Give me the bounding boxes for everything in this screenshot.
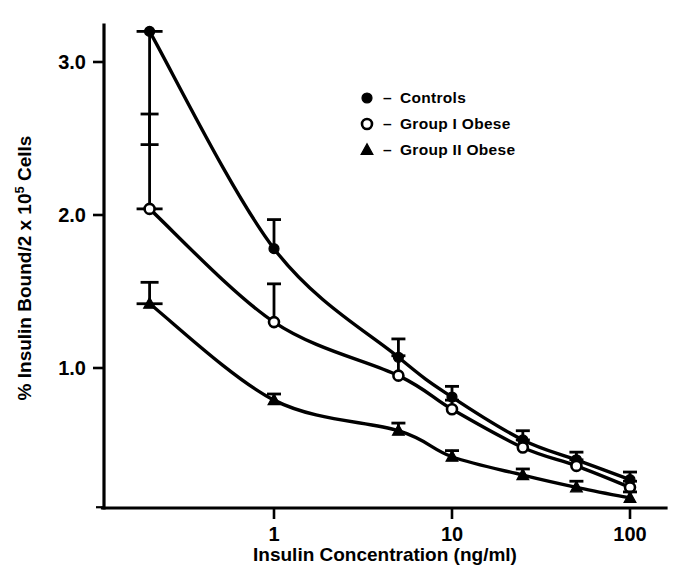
x-tick-label-1: 1 <box>268 523 279 545</box>
data-point-group-i-obese-0 <box>145 204 155 214</box>
x-axis-title: Insulin Concentration (ng/ml) <box>253 544 517 565</box>
legend-dash: – <box>383 89 392 106</box>
y-tick-label-2.0: 2.0 <box>58 204 86 226</box>
figure-root: 1.02.03.0 110100 –Controls–Group I Obese… <box>0 0 675 576</box>
data-point-group-i-obese-5 <box>571 461 581 471</box>
data-point-controls-0 <box>145 26 155 36</box>
legend-dash: – <box>383 141 392 158</box>
insulin-binding-chart: 1.02.03.0 110100 –Controls–Group I Obese… <box>0 0 675 576</box>
data-point-controls-1 <box>269 244 279 254</box>
data-point-group-i-obese-2 <box>393 371 403 381</box>
x-axis-title-label: Insulin Concentration (ng/ml) <box>253 544 517 565</box>
y-axis-title-tail: Cells <box>14 136 35 187</box>
legend-label-group-ii-obese: Group II Obese <box>400 141 515 158</box>
legend-label-group-i-obese: Group I Obese <box>400 115 511 132</box>
legend-dash: – <box>383 115 392 132</box>
y-tick-label-1.0: 1.0 <box>58 357 86 379</box>
y-axis-title-main: % Insulin Bound/2 x 10 <box>14 194 35 401</box>
data-point-group-i-obese-3 <box>447 404 457 414</box>
x-tick-label-100: 100 <box>613 523 646 545</box>
legend-item-group-ii-obese: –Group II Obese <box>361 141 515 158</box>
x-tick-label-10: 10 <box>441 523 463 545</box>
data-point-group-i-obese-1 <box>269 317 279 327</box>
y-tick-label-3.0: 3.0 <box>58 51 86 73</box>
data-point-group-i-obese-4 <box>518 443 528 453</box>
legend-marker-controls <box>362 93 372 103</box>
legend-marker-group-i-obese <box>362 119 372 129</box>
y-axis-title: % Insulin Bound/2 x 105 Cells <box>12 136 35 401</box>
y-axis-title-superscript: 5 <box>12 186 27 193</box>
legend-label-controls: Controls <box>400 89 466 106</box>
y-axis-title-label: % Insulin Bound/2 x 105 Cells <box>12 136 35 401</box>
legend-item-group-i-obese: –Group I Obese <box>362 115 511 132</box>
